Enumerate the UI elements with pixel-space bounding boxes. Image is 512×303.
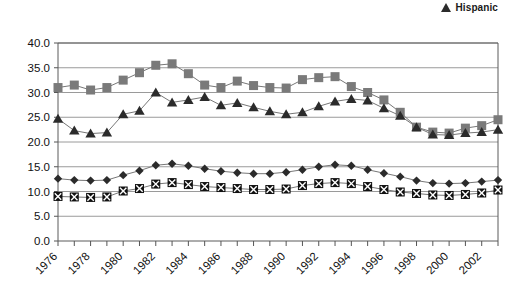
data-point-x-square xyxy=(151,180,160,189)
data-point-x-square xyxy=(494,186,503,195)
data-point-x-square xyxy=(445,191,454,200)
data-point-x-square xyxy=(135,184,144,193)
data-point-square xyxy=(331,72,340,81)
data-point-x-square xyxy=(461,190,470,199)
data-point-square xyxy=(379,95,388,104)
data-point-x-square xyxy=(102,192,111,201)
data-point-x-square xyxy=(428,190,437,199)
x-axis-tick-label: 1998 xyxy=(391,250,418,277)
data-point-diamond xyxy=(119,171,127,179)
triangle-icon xyxy=(441,3,451,12)
y-axis-tick-label: 10.0 xyxy=(28,186,50,198)
y-axis-tick-label: 25.0 xyxy=(28,111,50,123)
data-point-square xyxy=(135,68,144,77)
data-point-diamond xyxy=(461,179,469,187)
data-point-x-square xyxy=(379,185,388,194)
data-point-square xyxy=(168,59,177,68)
data-point-square xyxy=(282,84,291,93)
data-point-triangle xyxy=(199,92,209,101)
data-point-diamond xyxy=(86,176,94,184)
data-point-triangle xyxy=(69,126,79,135)
data-point-square xyxy=(151,61,160,70)
data-point-triangle xyxy=(232,98,242,107)
data-point-diamond xyxy=(445,179,453,187)
x-axis-tick-label: 1982 xyxy=(131,250,158,277)
data-point-x-square xyxy=(216,183,225,192)
x-axis-tick-label: 1984 xyxy=(163,250,190,277)
data-point-diamond xyxy=(331,161,339,169)
data-point-square xyxy=(200,81,209,90)
x-axis-tick-label: 1996 xyxy=(359,250,386,277)
data-point-x-square xyxy=(86,193,95,202)
data-point-x-square xyxy=(119,187,128,196)
line-chart-plot: 40.035.030.025.020.015.010.05.00.0197619… xyxy=(0,0,512,303)
data-point-triangle xyxy=(379,103,389,112)
data-point-diamond xyxy=(233,168,241,176)
data-point-square xyxy=(233,77,242,86)
data-point-diamond xyxy=(135,167,143,175)
data-point-x-square xyxy=(298,181,307,190)
data-point-triangle xyxy=(314,101,324,110)
data-point-x-square xyxy=(249,185,258,194)
x-axis-tick-label: 1994 xyxy=(326,250,353,277)
data-point-diamond xyxy=(54,174,62,182)
y-axis-tick-label: 0.0 xyxy=(34,235,50,247)
x-axis-tick-label: 1988 xyxy=(228,250,255,277)
data-point-diamond xyxy=(200,165,208,173)
data-point-diamond xyxy=(184,162,192,170)
data-point-x-square xyxy=(70,192,79,201)
data-point-x-square xyxy=(347,179,356,188)
data-point-diamond xyxy=(478,177,486,185)
data-point-diamond xyxy=(266,169,274,177)
data-point-diamond xyxy=(217,167,225,175)
data-point-x-square xyxy=(282,185,291,194)
data-point-diamond xyxy=(494,176,502,184)
data-point-square xyxy=(249,81,258,90)
x-axis-tick-label: 1990 xyxy=(261,250,288,277)
data-point-diamond xyxy=(152,161,160,169)
data-point-x-square xyxy=(184,180,193,189)
data-point-diamond xyxy=(282,168,290,176)
data-point-x-square xyxy=(168,178,177,187)
y-axis-tick-label: 35.0 xyxy=(28,62,50,74)
data-point-square xyxy=(119,76,128,85)
y-axis-tick-label: 15.0 xyxy=(28,161,50,173)
y-axis-tick-label: 30.0 xyxy=(28,87,50,99)
x-axis-tick-label: 1978 xyxy=(65,250,92,277)
data-point-square xyxy=(216,83,225,92)
y-axis-tick-label: 5.0 xyxy=(34,210,50,222)
series-line-square-series xyxy=(58,64,498,133)
x-axis-tick-label: 1986 xyxy=(196,250,223,277)
data-point-diamond xyxy=(103,176,111,184)
data-point-square xyxy=(265,83,274,92)
data-point-diamond xyxy=(412,176,420,184)
x-axis-tick-label: 2000 xyxy=(424,250,451,277)
y-axis-tick-label: 40.0 xyxy=(28,37,50,49)
data-point-diamond xyxy=(429,179,437,187)
data-point-diamond xyxy=(70,176,78,184)
data-point-square xyxy=(54,83,63,92)
data-point-square xyxy=(314,73,323,82)
data-point-x-square xyxy=(265,185,274,194)
data-point-x-square xyxy=(331,178,340,187)
data-point-x-square xyxy=(363,182,372,191)
x-axis-tick-label: 2002 xyxy=(457,250,484,277)
data-point-triangle xyxy=(493,125,503,134)
data-point-square xyxy=(298,75,307,84)
y-axis-tick-label: 20.0 xyxy=(28,136,50,148)
data-point-x-square xyxy=(477,188,486,197)
data-point-x-square xyxy=(200,182,209,191)
data-point-diamond xyxy=(396,172,404,180)
data-point-square xyxy=(102,83,111,92)
data-point-square xyxy=(494,115,503,124)
data-point-x-square xyxy=(54,192,63,201)
chart-container: Hispanic 40.035.030.025.020.015.010.05.0… xyxy=(0,0,512,303)
data-point-x-square xyxy=(412,189,421,198)
data-point-square xyxy=(184,69,193,78)
legend-item-label: Hispanic xyxy=(456,2,498,13)
data-point-triangle xyxy=(53,114,63,123)
data-point-triangle xyxy=(297,107,307,116)
x-axis-tick-label: 1992 xyxy=(294,250,321,277)
x-axis-tick-label: 1980 xyxy=(98,250,125,277)
data-point-square xyxy=(86,86,95,95)
